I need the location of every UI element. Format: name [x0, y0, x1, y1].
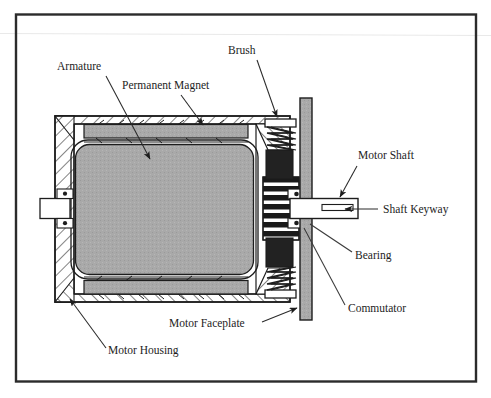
figure-canvas: Armature Permanent Magnet Brush Motor Sh…	[0, 0, 491, 398]
brush-cap-bottom	[265, 290, 296, 298]
label-shaft-keyway: Shaft Keyway	[383, 203, 449, 216]
brush-top	[266, 150, 293, 179]
brush-cap-top	[265, 119, 296, 127]
label-motor-housing: Motor Housing	[108, 344, 179, 357]
label-brush: Brush	[228, 44, 256, 56]
shaft-keyway-slot	[322, 205, 353, 211]
label-commutator: Commutator	[348, 302, 406, 314]
motor-cutaway-diagram: Armature Permanent Magnet Brush Motor Sh…	[0, 0, 491, 398]
brush-bottom	[266, 238, 293, 267]
label-motor-shaft: Motor Shaft	[358, 149, 415, 161]
label-bearing: Bearing	[355, 249, 392, 262]
label-motor-faceplate: Motor Faceplate	[169, 317, 245, 330]
housing-top-wall	[55, 116, 290, 124]
housing-bottom-wall	[55, 294, 290, 302]
label-armature: Armature	[57, 60, 101, 72]
label-permanent-magnet: Permanent Magnet	[122, 79, 210, 92]
armature	[71, 140, 258, 279]
